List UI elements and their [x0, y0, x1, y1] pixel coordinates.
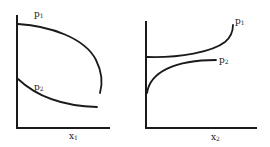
- right-panel: p1 p2 x2: [145, 16, 257, 142]
- diagram-canvas: p1 p2 x1 p1 p2 x2: [0, 0, 270, 147]
- right-label-p1: p1: [235, 16, 245, 26]
- right-curve-p2: [147, 60, 216, 93]
- left-panel: p1 p2 x1: [16, 9, 110, 141]
- left-curve-p2: [18, 79, 97, 107]
- right-curve-p1: [147, 25, 233, 57]
- right-label-p2: p2: [219, 55, 229, 65]
- left-label-p1: p1: [34, 9, 44, 19]
- left-curve-p1: [18, 24, 101, 93]
- left-x-label: x1: [69, 131, 78, 141]
- right-x-label: x2: [211, 132, 220, 142]
- left-label-p2: p2: [34, 82, 44, 92]
